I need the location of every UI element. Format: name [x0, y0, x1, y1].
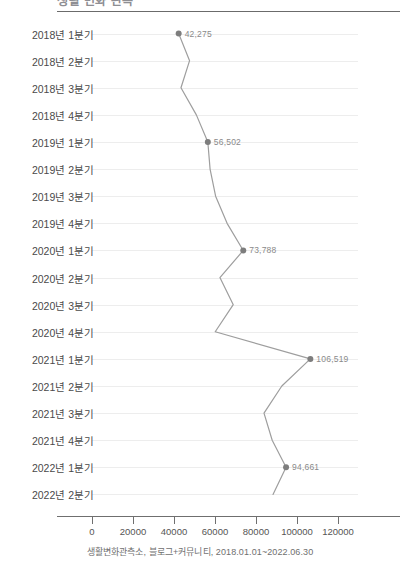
y-axis-label: 2022년 1분기 [0, 460, 94, 475]
y-axis-label: 2021년 4분기 [0, 433, 94, 448]
series-line [92, 20, 358, 508]
data-point-label: 94,661 [292, 462, 319, 472]
x-axis-tick-label: 120000 [322, 526, 354, 537]
data-point-marker[interactable] [176, 31, 182, 37]
x-axis-tick [215, 517, 216, 524]
y-axis-label: 2020년 3분기 [0, 297, 94, 312]
x-axis-tick-label: 100000 [281, 526, 313, 537]
y-axis-label: 2020년 2분기 [0, 270, 94, 285]
y-axis-label: 2020년 1분기 [0, 243, 94, 258]
y-axis-label: 2020년 4분기 [0, 324, 94, 339]
y-axis-label: 2022년 2분기 [0, 487, 94, 502]
page-title-strip: 생활 변화 관측 [0, 0, 400, 11]
x-axis-tick-label: 80000 [243, 526, 269, 537]
y-axis-label: 2018년 3분기 [0, 80, 94, 95]
x-axis-tick [256, 517, 257, 524]
data-point-label: 42,275 [185, 29, 212, 39]
y-axis-label: 2021년 2분기 [0, 379, 94, 394]
x-axis-tick [92, 517, 93, 524]
x-axis-tick-label: 40000 [161, 526, 187, 537]
source-caption: 생활변화관측소, 블로그+커뮤니티, 2018.01.01~2022.06.30 [0, 545, 400, 558]
y-axis-label: 2019년 2분기 [0, 162, 94, 177]
y-axis-label: 2019년 4분기 [0, 216, 94, 231]
data-point-label: 106,519 [316, 354, 348, 364]
y-axis-label: 2018년 1분기 [0, 26, 94, 41]
plot-area: 42,27556,50273,788106,51994,661 [92, 20, 358, 508]
data-point-label: 56,502 [214, 137, 241, 147]
data-point-marker[interactable] [240, 247, 246, 253]
data-point-label: 73,788 [249, 245, 276, 255]
line-chart: 42,27556,50273,788106,51994,661 2018년 1분… [0, 20, 400, 520]
x-axis-tick-label: 60000 [202, 526, 228, 537]
y-axis-label: 2019년 1분기 [0, 135, 94, 150]
y-axis-label: 2019년 3분기 [0, 189, 94, 204]
x-axis-tick-label: 0 [89, 526, 94, 537]
x-axis-tick [133, 517, 134, 524]
y-axis-label: 2018년 2분기 [0, 53, 94, 68]
x-axis-tick [338, 517, 339, 524]
data-point-marker[interactable] [283, 464, 289, 470]
x-axis-tick [297, 517, 298, 524]
x-axis-tick-label: 20000 [120, 526, 146, 537]
y-axis-label: 2021년 1분기 [0, 351, 94, 366]
data-point-marker[interactable] [205, 139, 211, 145]
x-axis-tick [174, 517, 175, 524]
y-axis-label: 2018년 4분기 [0, 107, 94, 122]
title-divider [57, 11, 400, 12]
data-point-marker[interactable] [307, 356, 313, 362]
y-axis-label: 2021년 3분기 [0, 406, 94, 421]
page-title: 생활 변화 관측 [57, 0, 134, 8]
x-axis-line [57, 516, 400, 517]
